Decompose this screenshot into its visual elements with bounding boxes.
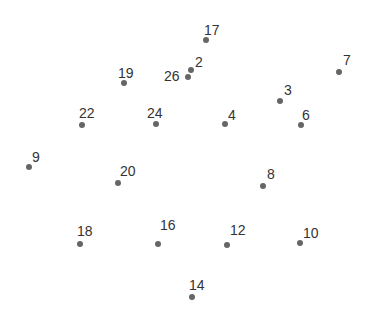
dot-22 (79, 122, 85, 128)
dot-label-24: 24 (147, 106, 163, 120)
dot-8 (260, 183, 266, 189)
dot-label-14: 14 (189, 278, 205, 292)
dot-12 (224, 242, 230, 248)
dot-label-19: 19 (118, 66, 134, 80)
dot-label-17: 17 (204, 23, 220, 37)
dot-label-16: 16 (160, 218, 176, 232)
dot-label-4: 4 (228, 108, 236, 122)
dot-label-2: 2 (195, 55, 203, 69)
dot-2 (188, 67, 194, 73)
dot-label-12: 12 (230, 223, 246, 237)
dot-label-10: 10 (303, 226, 319, 240)
dot-3 (277, 98, 283, 104)
dot-label-26: 26 (164, 69, 180, 83)
dot-label-20: 20 (120, 164, 136, 178)
dot-label-3: 3 (284, 83, 292, 97)
dot-26 (185, 74, 191, 80)
dot-diagram-canvas: 17226197322244692081816121014 (0, 0, 371, 317)
dot-16 (155, 241, 161, 247)
dot-label-9: 9 (32, 150, 40, 164)
dot-14 (189, 294, 195, 300)
dot-label-22: 22 (79, 106, 95, 120)
dot-label-7: 7 (343, 53, 351, 67)
dot-18 (77, 241, 83, 247)
dot-label-18: 18 (77, 224, 93, 238)
dot-label-6: 6 (302, 108, 310, 122)
dot-24 (153, 121, 159, 127)
dot-20 (115, 180, 121, 186)
dot-label-8: 8 (267, 167, 275, 181)
dot-7 (336, 69, 342, 75)
